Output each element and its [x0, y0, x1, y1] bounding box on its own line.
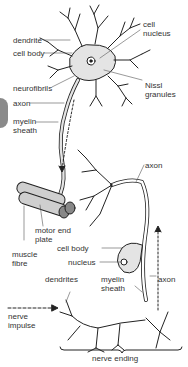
label-dendrite: dendrite — [13, 36, 42, 45]
label-myelin-top-line1: myelin — [13, 117, 36, 126]
label-cell-body-bottom: cell body — [57, 244, 89, 253]
label-nerve-impulse-line2: impulse — [8, 321, 36, 330]
label-nissl-line2: granules — [145, 90, 176, 99]
label-cell-nucleus-line2: nucleus — [143, 29, 171, 38]
label-axon-bottom: axon — [158, 275, 175, 284]
label-nissl-line1: Nissl — [145, 81, 162, 90]
label-dendrites: dendrites — [45, 275, 78, 284]
muscle-fibre — [15, 181, 75, 218]
label-nucleus-bottom: nucleus — [68, 258, 96, 267]
label-myelin-bottom-line1: myelin — [101, 275, 124, 284]
label-motor-end-line2: plate — [35, 235, 52, 244]
sensory-cell-body — [117, 243, 142, 273]
label-cell-body-top: cell body — [13, 49, 45, 58]
label-neurofibrils: neurofibrils — [13, 84, 52, 93]
label-axon-top: axon — [13, 99, 30, 108]
label-myelin-top-line2: sheath — [13, 126, 37, 135]
label-axon-right: axon — [145, 161, 162, 170]
label-motor-end-line1: motor end — [35, 226, 71, 235]
label-muscle-line1: muscle — [12, 250, 37, 259]
label-myelin-bottom-line2: sheath — [101, 284, 125, 293]
label-nerve-ending: nerve ending — [92, 354, 138, 363]
label-muscle-line2: fibre — [12, 259, 28, 268]
label-cell-nucleus-line1: cell — [143, 20, 155, 29]
label-nerve-impulse-line1: nerve — [8, 312, 28, 321]
